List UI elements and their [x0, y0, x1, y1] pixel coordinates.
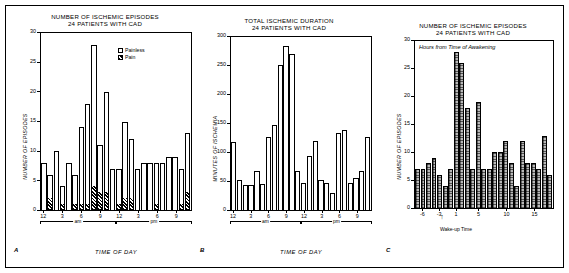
bar [487, 169, 492, 208]
bar [231, 142, 236, 210]
bar [443, 186, 448, 208]
bar-column [66, 33, 72, 210]
bar [503, 141, 508, 208]
bar-segment-painless [160, 163, 166, 210]
bar-column [248, 37, 253, 210]
x-tick-label: 12 [116, 214, 122, 219]
bar-column [295, 37, 300, 210]
bar-column [348, 37, 353, 210]
legend-label-painless: Painless [125, 47, 145, 54]
bar-column [448, 41, 453, 208]
panel-b-title-line1: TOTAL ISCHEMIC DURATION [244, 17, 333, 24]
bar [476, 102, 481, 208]
bar-segment-pain [47, 198, 53, 210]
x-tick-label: 9 [175, 214, 178, 219]
bar-column [481, 41, 486, 208]
bar-segment-pain [122, 198, 128, 210]
panel-c-bars [415, 41, 553, 208]
bar-column [185, 33, 191, 210]
bar-segment-painless [72, 175, 78, 205]
bar [520, 141, 525, 208]
y-tick-mark [227, 65, 230, 66]
pm-label: pm [332, 219, 342, 224]
y-tick-mark [411, 152, 414, 153]
x-tick-label: 3 [249, 214, 252, 219]
panel-b-plot-area [230, 36, 372, 210]
panel-a: NUMBER OF ISCHEMIC EPISODES 24 PATIENTS … [10, 0, 200, 273]
y-tick-mark [37, 121, 40, 122]
x-tick-label: 3 [320, 214, 323, 219]
bar-segment-painless [166, 157, 172, 210]
bar [481, 169, 486, 208]
bar-column [353, 37, 358, 210]
bar-segment-pain [129, 198, 135, 210]
bar-segment-painless [47, 175, 53, 199]
panel-c-title: NUMBER OF ISCHEMIC EPISODES 24 PATIENTS … [382, 22, 564, 37]
bar [313, 141, 318, 210]
y-tick-mark [227, 152, 230, 153]
bar-segment-painless [141, 163, 147, 210]
panel-letter-a: A [14, 247, 18, 253]
bar-segment-painless [66, 163, 72, 210]
wake-up-arrow-icon: ↑ [440, 214, 444, 219]
bar-segment-pain [104, 192, 110, 210]
bar [525, 163, 530, 208]
panel-b-x-axis-label: TIME OF DAY [280, 249, 322, 255]
bar-segment-painless [116, 169, 122, 204]
x-tick-label: 12 [230, 214, 236, 219]
bar-column [336, 37, 341, 210]
bar [432, 158, 437, 208]
bar-column [301, 37, 306, 210]
bar-segment-painless [129, 139, 135, 198]
bar-column [454, 41, 459, 208]
x-tick-label: 9 [356, 214, 359, 219]
bar [459, 63, 464, 208]
bar-segment-painless [85, 104, 91, 204]
bar [289, 54, 294, 210]
bar-column [487, 41, 492, 208]
bar-column [459, 41, 464, 208]
bar-column [97, 33, 103, 210]
x-tick-label: 12 [301, 214, 307, 219]
legend-item-pain: Pain [118, 54, 145, 61]
bar [237, 180, 242, 210]
bar-column [307, 37, 312, 210]
y-tick-label: 20 [392, 93, 410, 98]
bar-column [79, 33, 85, 210]
bar [307, 156, 312, 210]
bar-segment-painless [54, 151, 60, 210]
bar-column [160, 33, 166, 210]
x-tick-label: 3 [61, 214, 64, 219]
bar-segment-painless [154, 163, 160, 204]
y-tick-mark [227, 181, 230, 182]
bar-segment-painless [185, 133, 191, 192]
bar [448, 169, 453, 208]
bar-column [110, 33, 116, 210]
bar-segment-painless [79, 127, 85, 204]
y-tick-mark [227, 36, 230, 37]
bar [365, 137, 370, 210]
bar-column [318, 37, 323, 210]
bar-segment-painless [104, 92, 110, 192]
bar-column [514, 41, 519, 208]
legend-item-painless: Painless [118, 47, 145, 54]
bar-column [154, 33, 160, 210]
bar-segment-painless [147, 163, 153, 210]
bar [470, 169, 475, 208]
panel-a-y-axis-label: NUMBER OF EPISODES [22, 113, 28, 180]
bar-segment-painless [91, 45, 97, 187]
panel-a-title: NUMBER OF ISCHEMIC EPISODES 24 PATIENTS … [10, 13, 200, 28]
bar [254, 171, 259, 210]
panel-c-title-line1: NUMBER OF ISCHEMIC EPISODES [419, 22, 527, 29]
bar-column [547, 41, 552, 208]
bar [353, 178, 358, 210]
x-tick-label: -6 [420, 212, 425, 217]
bar-column [520, 41, 525, 208]
bar-column [432, 41, 437, 208]
bar [318, 180, 323, 210]
bar-column [415, 41, 420, 208]
panel-letter-c: C [386, 247, 390, 253]
bar-column [498, 41, 503, 208]
bar [498, 152, 503, 208]
y-tick-mark [411, 40, 414, 41]
